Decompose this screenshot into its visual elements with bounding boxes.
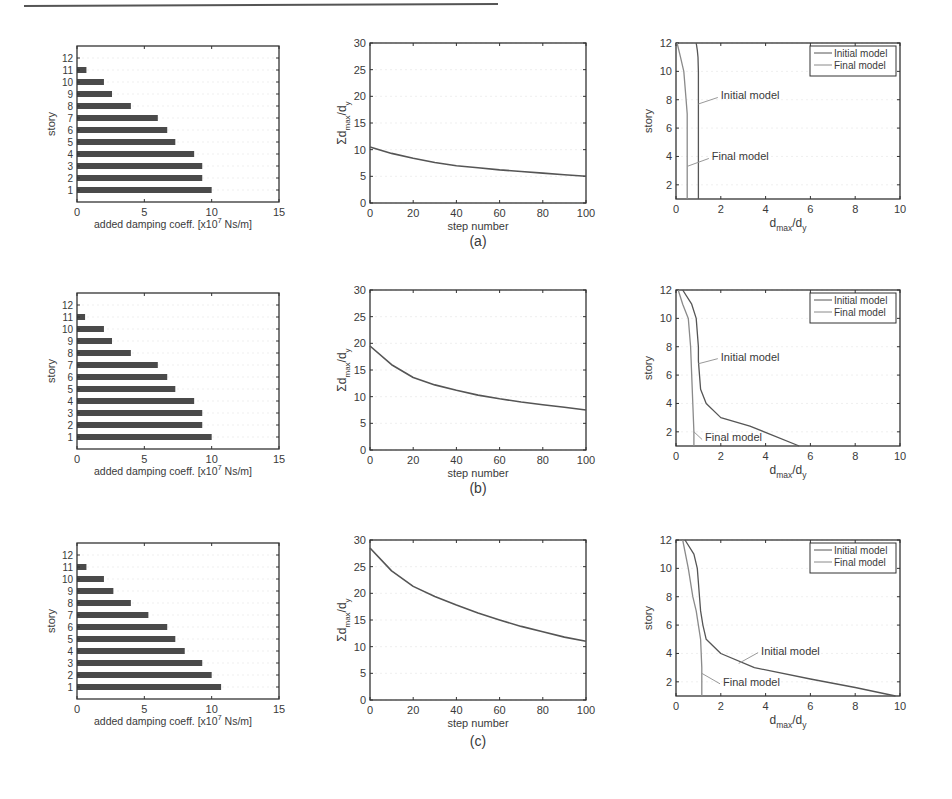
y-tick-label: 20 bbox=[354, 90, 366, 102]
panel-b-left: 051015123456789101112added damping coeff… bbox=[45, 293, 285, 477]
y-tick-label: 6 bbox=[67, 372, 73, 383]
annotation-label: Final model bbox=[712, 150, 769, 162]
figure-canvas: 051015123456789101112added damping coeff… bbox=[0, 0, 952, 799]
y-tick-label: 20 bbox=[354, 587, 366, 599]
y-tick-label: 4 bbox=[666, 150, 672, 162]
x-tick-label: 5 bbox=[141, 453, 147, 465]
y-tick-label: 2 bbox=[666, 676, 672, 688]
y-tick-label: 30 bbox=[354, 284, 366, 296]
legend: Initial modelFinal model bbox=[810, 293, 896, 323]
bar-story-8 bbox=[77, 350, 131, 356]
row-caption: (a) bbox=[469, 233, 486, 249]
y-tick-label: 10 bbox=[62, 77, 74, 88]
x-tick-label: 4 bbox=[763, 203, 769, 215]
y-tick-label: 8 bbox=[67, 598, 73, 609]
x-tick-label: 40 bbox=[450, 207, 462, 219]
y-tick-label: 2 bbox=[666, 179, 672, 191]
y-tick-label: 15 bbox=[354, 117, 366, 129]
x-axis-label: dmax/dy bbox=[769, 216, 807, 233]
x-tick-label: 20 bbox=[407, 454, 419, 466]
y-tick-label: 10 bbox=[354, 641, 366, 653]
x-tick-label: 0 bbox=[74, 453, 80, 465]
y-tick-label: 6 bbox=[666, 122, 672, 134]
y-tick-label: 2 bbox=[67, 670, 73, 681]
y-tick-label: 9 bbox=[67, 586, 73, 597]
initial-model-line bbox=[683, 290, 800, 446]
final-model-line bbox=[677, 43, 687, 199]
y-tick-label: 12 bbox=[660, 534, 672, 546]
y-tick-label: 6 bbox=[666, 619, 672, 631]
y-tick-label: 8 bbox=[666, 94, 672, 106]
annotation-label: Final model bbox=[723, 676, 780, 688]
y-tick-label: 5 bbox=[67, 634, 73, 645]
annotation-label: Initial model bbox=[721, 351, 780, 363]
x-tick-label: 5 bbox=[141, 703, 147, 715]
x-tick-label: 6 bbox=[807, 700, 813, 712]
y-tick-label: 4 bbox=[666, 647, 672, 659]
y-tick-label: 2 bbox=[666, 426, 672, 438]
x-tick-label: 100 bbox=[577, 454, 595, 466]
bar-story-2 bbox=[77, 175, 202, 181]
panel-b-right: 024681024681012dmax/dystoryInitial model… bbox=[642, 284, 906, 480]
x-tick-label: 0 bbox=[74, 206, 80, 218]
x-tick-label: 40 bbox=[450, 704, 462, 716]
y-tick-label: 2 bbox=[67, 420, 73, 431]
x-tick-label: 0 bbox=[367, 454, 373, 466]
annotation-label: Initial model bbox=[761, 645, 820, 657]
x-tick-label: 15 bbox=[273, 206, 285, 218]
y-tick-label: 15 bbox=[354, 614, 366, 626]
x-tick-label: 15 bbox=[273, 703, 285, 715]
x-tick-label: 2 bbox=[718, 203, 724, 215]
convergence-curve bbox=[370, 346, 586, 410]
y-tick-label: 11 bbox=[63, 65, 74, 76]
y-tick-label: 0 bbox=[360, 197, 366, 209]
y-tick-label: 7 bbox=[67, 610, 73, 621]
final-model-line bbox=[678, 290, 694, 446]
x-tick-label: 80 bbox=[537, 704, 549, 716]
y-tick-label: 4 bbox=[67, 396, 73, 407]
x-tick-label: 8 bbox=[852, 203, 858, 215]
x-tick-label: 6 bbox=[807, 203, 813, 215]
x-tick-label: 0 bbox=[74, 703, 80, 715]
bar-story-1 bbox=[77, 434, 212, 440]
annotation-leader bbox=[698, 97, 717, 104]
bar-story-4 bbox=[77, 151, 194, 157]
annotation-leader bbox=[702, 673, 720, 684]
x-tick-label: 80 bbox=[537, 207, 549, 219]
x-tick-label: 10 bbox=[894, 700, 906, 712]
x-axis-label: added damping coeff. [x107 Ns/m] bbox=[94, 463, 252, 477]
x-axis-label: dmax/dy bbox=[769, 463, 807, 480]
y-tick-label: 7 bbox=[67, 360, 73, 371]
y-tick-label: 12 bbox=[62, 550, 74, 561]
x-tick-label: 60 bbox=[493, 207, 505, 219]
bar-story-7 bbox=[77, 362, 158, 368]
y-tick-label: 8 bbox=[67, 101, 73, 112]
x-tick-label: 80 bbox=[537, 454, 549, 466]
y-tick-label: 3 bbox=[67, 408, 73, 419]
final-model-line bbox=[683, 540, 702, 696]
y-tick-label: 1 bbox=[67, 432, 73, 443]
y-tick-label: 6 bbox=[67, 125, 73, 136]
y-tick-label: 30 bbox=[354, 37, 366, 49]
annotation-leader bbox=[694, 432, 702, 440]
x-tick-label: 60 bbox=[493, 704, 505, 716]
x-tick-label: 60 bbox=[493, 454, 505, 466]
y-axis-label: Σdmax/dy bbox=[335, 348, 352, 391]
y-tick-label: 1 bbox=[67, 682, 73, 693]
y-tick-label: 3 bbox=[67, 161, 73, 172]
y-tick-label: 10 bbox=[660, 65, 672, 77]
bar-story-4 bbox=[77, 648, 185, 654]
y-tick-label: 25 bbox=[354, 561, 366, 573]
y-axis-label: story bbox=[45, 609, 57, 633]
x-tick-label: 4 bbox=[763, 450, 769, 462]
y-tick-label: 11 bbox=[63, 312, 74, 323]
y-tick-label: 4 bbox=[67, 149, 73, 160]
y-tick-label: 3 bbox=[67, 658, 73, 669]
y-tick-label: 15 bbox=[354, 364, 366, 376]
y-tick-label: 6 bbox=[67, 622, 73, 633]
x-tick-label: 2 bbox=[718, 700, 724, 712]
y-tick-label: 6 bbox=[666, 369, 672, 381]
y-tick-label: 8 bbox=[666, 341, 672, 353]
bar-story-10 bbox=[77, 576, 104, 582]
y-tick-label: 12 bbox=[62, 53, 74, 64]
